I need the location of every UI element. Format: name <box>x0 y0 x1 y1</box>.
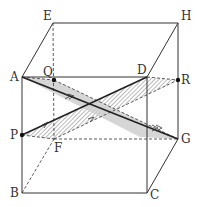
label-F: F <box>54 141 62 155</box>
label-C: C <box>150 188 159 202</box>
point-P-dot <box>20 133 24 137</box>
label-E: E <box>43 9 52 23</box>
point-R-dot <box>176 78 180 82</box>
label-Q: Q <box>43 65 53 79</box>
label-H: H <box>181 9 191 23</box>
label-G: G <box>181 132 191 146</box>
label-A: A <box>9 70 19 84</box>
label-R: R <box>181 73 191 87</box>
label-P: P <box>10 128 18 142</box>
cube-diagram: E H A Q D R P F G B C <box>0 0 199 207</box>
label-B: B <box>10 186 19 200</box>
label-D: D <box>137 63 147 77</box>
